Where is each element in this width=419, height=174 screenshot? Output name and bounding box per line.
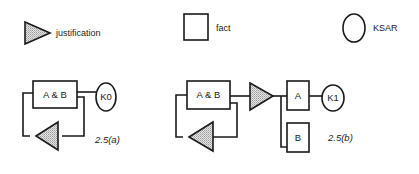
ksar-node-k1-label: K1 <box>327 92 339 103</box>
fact-node-b-label: B <box>295 132 301 143</box>
fact-node-a-and-b-label: A & B <box>43 89 67 100</box>
figure-b-caption: 2.5(b) <box>327 132 353 143</box>
legend-justification: justification <box>25 22 101 44</box>
legend-ksar: KSAR <box>343 14 398 42</box>
legend: justification fact KSAR <box>25 14 398 44</box>
justification-node-loop-a <box>36 122 58 150</box>
justification-triangle-icon <box>25 22 50 44</box>
diagram-canvas: justification fact KSAR A & B K0 2.5(a) <box>0 0 419 174</box>
ksar-circle-icon <box>343 14 365 42</box>
legend-fact-label: fact <box>216 23 231 33</box>
loop-left-connector <box>23 93 33 136</box>
legend-fact: fact <box>184 14 231 40</box>
justification-node-loop-b <box>189 122 213 151</box>
figure-2-5b: A & B A B K1 2.5(b) <box>176 81 353 152</box>
loop-left-connector-b <box>176 95 187 137</box>
fact-node-a-label: A <box>295 90 302 101</box>
legend-justification-label: justification <box>55 28 101 38</box>
legend-ksar-label: KSAR <box>373 23 398 33</box>
figure-2-5a: A & B K0 2.5(a) <box>23 81 120 150</box>
figure-a-caption: 2.5(a) <box>94 134 120 145</box>
justification-node-split <box>250 83 273 110</box>
fact-square-icon <box>184 14 208 40</box>
link-justification-to-b <box>281 96 287 147</box>
ksar-node-k0-label: K0 <box>100 91 112 102</box>
fact-node-a-and-b-b-label: A & B <box>197 89 221 100</box>
